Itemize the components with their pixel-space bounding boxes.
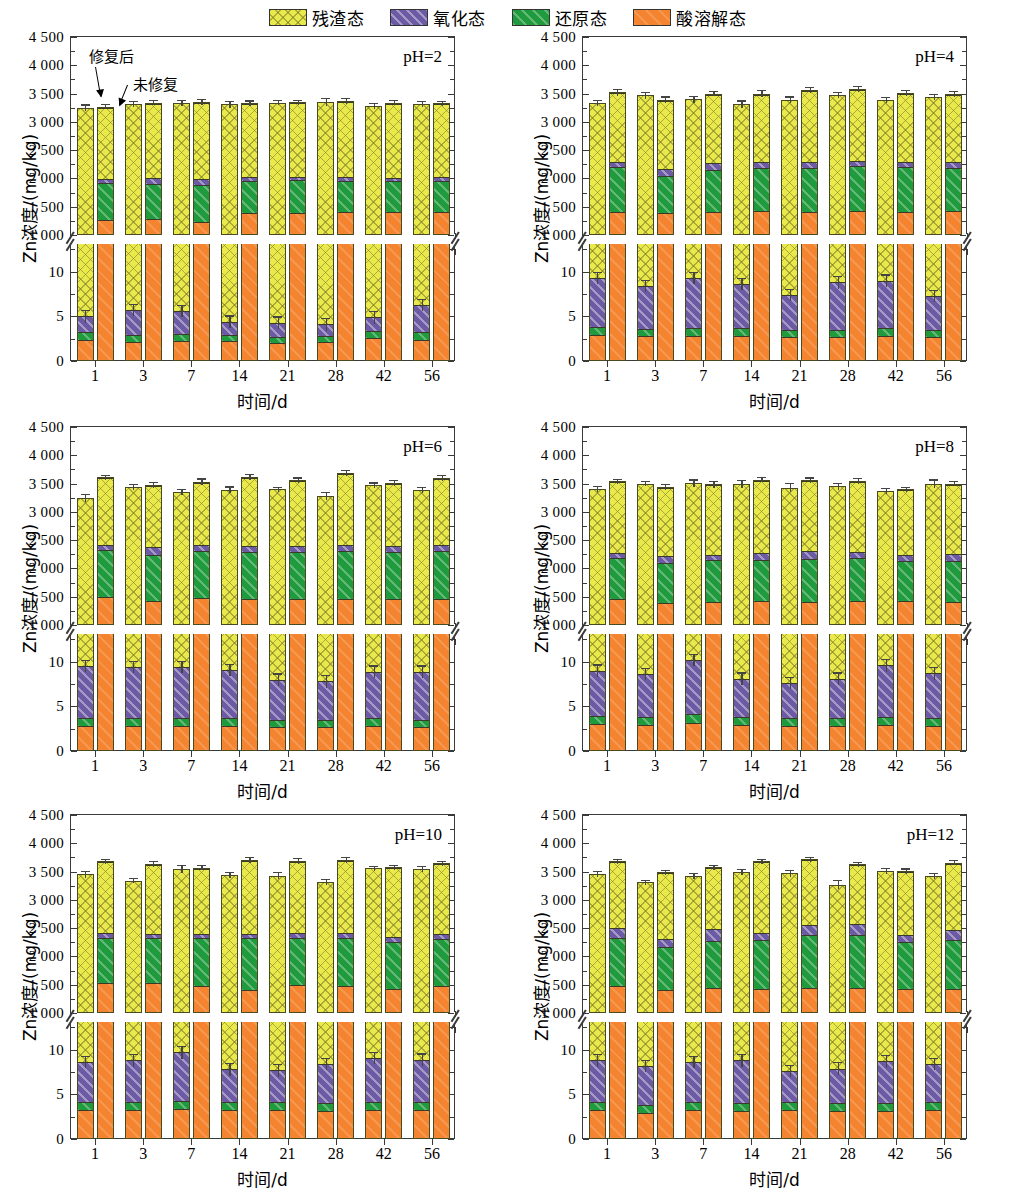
bar-unremediated-lower[interactable] [337,1022,354,1139]
bar-remediated-upper[interactable] [221,875,238,1013]
bar-unremediated-lower[interactable] [705,634,722,751]
bar-remediated-upper[interactable] [269,876,286,1013]
bar-unremediated-lower[interactable] [385,244,402,361]
bar-unremediated-upper[interactable] [609,481,626,625]
bar-remediated-upper[interactable] [589,874,606,1013]
bar-remediated-lower[interactable] [125,244,142,361]
bar-unremediated-lower[interactable] [289,1022,306,1139]
bar-unremediated-upper[interactable] [753,94,770,235]
bar-remediated-upper[interactable] [925,876,942,1013]
bar-unremediated-upper[interactable] [193,868,210,1013]
bar-remediated-lower[interactable] [221,634,238,751]
bar-remediated-lower[interactable] [589,1022,606,1139]
bar-unremediated-upper[interactable] [801,480,818,625]
bar-unremediated-upper[interactable] [289,861,306,1013]
bar-remediated-upper[interactable] [877,100,894,235]
bar-unremediated-upper[interactable] [945,94,962,235]
bar-remediated-lower[interactable] [413,1022,430,1139]
bar-remediated-lower[interactable] [317,634,334,751]
bar-unremediated-lower[interactable] [657,244,674,361]
bar-remediated-upper[interactable] [781,488,798,625]
bar-unremediated-lower[interactable] [897,1022,914,1139]
bar-remediated-upper[interactable] [637,882,654,1013]
bar-remediated-upper[interactable] [413,104,430,235]
bar-remediated-upper[interactable] [317,496,334,625]
bar-remediated-upper[interactable] [589,489,606,625]
bar-unremediated-lower[interactable] [753,634,770,751]
bar-unremediated-upper[interactable] [657,100,674,235]
bar-remediated-lower[interactable] [589,634,606,751]
bar-remediated-upper[interactable] [413,869,430,1013]
bar-unremediated-upper[interactable] [337,860,354,1013]
bar-remediated-upper[interactable] [221,490,238,625]
bar-unremediated-upper[interactable] [897,871,914,1013]
bar-unremediated-upper[interactable] [337,473,354,625]
bar-unremediated-upper[interactable] [289,102,306,235]
bar-unremediated-lower[interactable] [337,244,354,361]
bar-remediated-upper[interactable] [77,498,94,625]
bar-remediated-upper[interactable] [829,885,846,1013]
bar-unremediated-lower[interactable] [289,244,306,361]
bar-unremediated-lower[interactable] [433,1022,450,1139]
bar-remediated-upper[interactable] [781,100,798,235]
bar-unremediated-upper[interactable] [705,867,722,1013]
bar-unremediated-upper[interactable] [897,93,914,235]
bar-remediated-lower[interactable] [685,244,702,361]
bar-unremediated-upper[interactable] [801,90,818,235]
bar-unremediated-lower[interactable] [433,244,450,361]
bar-unremediated-lower[interactable] [241,1022,258,1139]
bar-unremediated-lower[interactable] [897,244,914,361]
bar-remediated-lower[interactable] [317,244,334,361]
bar-remediated-lower[interactable] [589,244,606,361]
bar-remediated-lower[interactable] [685,1022,702,1139]
bar-remediated-lower[interactable] [877,244,894,361]
bar-unremediated-lower[interactable] [609,1022,626,1139]
bar-unremediated-lower[interactable] [145,1022,162,1139]
bar-unremediated-upper[interactable] [385,103,402,235]
bar-remediated-upper[interactable] [925,484,942,625]
bar-remediated-upper[interactable] [413,490,430,625]
bar-remediated-lower[interactable] [829,1022,846,1139]
bar-remediated-upper[interactable] [589,103,606,235]
bar-unremediated-lower[interactable] [193,634,210,751]
bar-unremediated-upper[interactable] [753,480,770,625]
bar-remediated-upper[interactable] [733,872,750,1013]
bar-remediated-lower[interactable] [221,244,238,361]
bar-unremediated-lower[interactable] [97,1022,114,1139]
bar-unremediated-lower[interactable] [849,1022,866,1139]
bar-remediated-upper[interactable] [77,874,94,1013]
bar-remediated-upper[interactable] [829,95,846,235]
bar-remediated-upper[interactable] [173,103,190,235]
bar-unremediated-upper[interactable] [801,859,818,1013]
bar-remediated-lower[interactable] [221,1022,238,1139]
bar-remediated-lower[interactable] [781,1022,798,1139]
bar-remediated-lower[interactable] [781,634,798,751]
bar-unremediated-lower[interactable] [433,634,450,751]
bar-remediated-upper[interactable] [365,868,382,1013]
bar-remediated-upper[interactable] [269,489,286,625]
bar-remediated-lower[interactable] [733,634,750,751]
bar-unremediated-lower[interactable] [609,634,626,751]
bar-remediated-lower[interactable] [77,244,94,361]
bar-unremediated-upper[interactable] [945,863,962,1013]
bar-remediated-lower[interactable] [637,244,654,361]
bar-unremediated-upper[interactable] [705,484,722,625]
bar-remediated-upper[interactable] [77,108,94,235]
bar-remediated-upper[interactable] [781,873,798,1013]
bar-unremediated-lower[interactable] [289,634,306,751]
bar-unremediated-upper[interactable] [657,487,674,625]
bar-unremediated-upper[interactable] [849,481,866,625]
bar-remediated-lower[interactable] [173,244,190,361]
bar-remediated-lower[interactable] [365,244,382,361]
bar-remediated-upper[interactable] [125,487,142,625]
bar-remediated-lower[interactable] [125,634,142,751]
bar-unremediated-upper[interactable] [241,103,258,235]
bar-unremediated-lower[interactable] [945,634,962,751]
bar-unremediated-lower[interactable] [753,1022,770,1139]
bar-unremediated-lower[interactable] [385,634,402,751]
bar-unremediated-lower[interactable] [897,634,914,751]
bar-remediated-upper[interactable] [829,486,846,625]
bar-unremediated-lower[interactable] [657,1022,674,1139]
bar-unremediated-lower[interactable] [97,244,114,361]
bar-remediated-lower[interactable] [269,244,286,361]
